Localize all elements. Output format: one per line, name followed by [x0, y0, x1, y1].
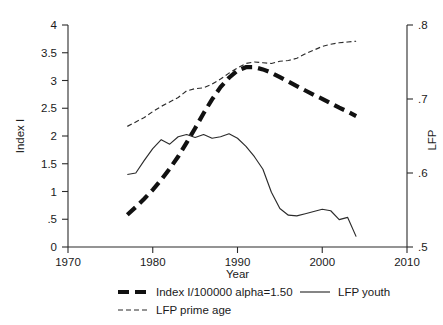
left-tick-label: 2.5 — [41, 102, 57, 114]
chart-legend: Index I/100000 alpha=1.50 LFP youth LFP … — [118, 286, 390, 316]
left-axis-ticks — [62, 25, 68, 247]
right-axis-ticks — [407, 25, 413, 247]
left-tick-label: 0 — [51, 241, 57, 253]
series-line-index — [127, 67, 356, 215]
left-tick-label: 3 — [51, 75, 57, 87]
right-tick-label: .6 — [418, 167, 428, 179]
chart-figure: 0 .5 1 1.5 2 2.5 3 3.5 4 .5 .6 .7 .8 — [0, 0, 443, 325]
series-line-lfp-youth — [127, 134, 356, 237]
x-tick-label: 1990 — [225, 256, 251, 268]
left-tick-label: 2 — [51, 130, 57, 142]
x-axis-tick-labels: 1970 1980 1990 2000 2010 — [55, 256, 420, 268]
left-axis-title: Index I — [14, 119, 26, 154]
x-axis-title: Year — [226, 268, 249, 280]
x-tick-label: 2010 — [394, 256, 420, 268]
left-tick-label: 1 — [51, 186, 57, 198]
dual-axis-line-chart: 0 .5 1 1.5 2 2.5 3 3.5 4 .5 .6 .7 .8 — [0, 0, 443, 325]
legend-label-youth: LFP youth — [338, 286, 390, 298]
right-tick-label: .7 — [418, 93, 428, 105]
right-tick-label: .5 — [418, 241, 428, 253]
left-tick-label: 1.5 — [41, 158, 57, 170]
x-tick-label: 1980 — [140, 256, 166, 268]
left-tick-label: .5 — [47, 213, 57, 225]
legend-label-index: Index I/100000 alpha=1.50 — [156, 286, 293, 298]
series-line-lfp-prime-age — [127, 41, 356, 126]
x-tick-label: 2000 — [309, 256, 335, 268]
left-tick-label: 3.5 — [41, 47, 57, 59]
legend-label-prime: LFP prime age — [156, 304, 231, 316]
right-tick-label: .8 — [418, 19, 428, 31]
x-tick-label: 1970 — [55, 256, 81, 268]
x-axis-ticks — [68, 247, 407, 253]
left-axis-tick-labels: 0 .5 1 1.5 2 2.5 3 3.5 4 — [41, 19, 58, 253]
left-tick-label: 4 — [51, 19, 58, 31]
right-axis-title: LFP — [426, 129, 438, 150]
